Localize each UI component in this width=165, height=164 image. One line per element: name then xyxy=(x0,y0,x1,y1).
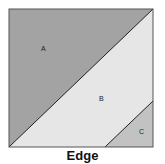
label-c: C xyxy=(139,128,144,135)
region-diagram: A B C xyxy=(0,0,165,164)
label-a: A xyxy=(41,45,46,52)
caption: Edge xyxy=(0,148,165,163)
label-b: B xyxy=(99,95,104,102)
